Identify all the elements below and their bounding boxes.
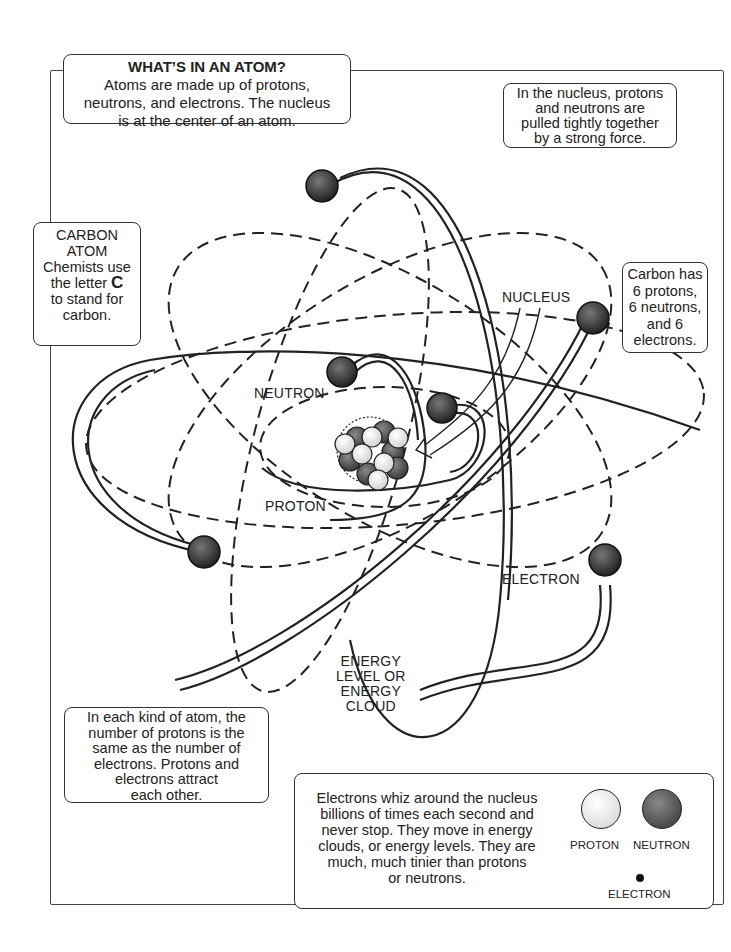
title-box: WHAT’S IN AN ATOM? Atoms are made up of … <box>63 54 351 124</box>
electron-info-line: much, much tinier than protons <box>301 854 553 870</box>
nucleus-info-box: In the nucleus, protons and neutrons are… <box>503 83 677 148</box>
count-line: electrons. <box>623 332 707 349</box>
carbon-line: Chemists use <box>34 259 140 275</box>
nucleus-info-line: and neutrons are <box>504 101 676 116</box>
energy-line: ENERGY <box>336 654 406 669</box>
neutron-sample <box>327 357 357 387</box>
carbon-line: ATOM <box>34 243 140 259</box>
nucleus-label: NUCLEUS <box>502 289 570 305</box>
count-line: and 6 <box>623 316 707 333</box>
neutron-label: NEUTRON <box>254 385 325 401</box>
electron-bottom-right <box>589 544 621 576</box>
equal-line: In each kind of atom, the <box>65 710 268 726</box>
electron-info-line: billions of times each second and <box>301 806 553 822</box>
equal-line: electrons. Protons and <box>65 757 268 773</box>
equal-line: number of protons is the <box>65 726 268 742</box>
carbon-line: carbon. <box>34 307 140 323</box>
nucleus-info-line: pulled tightly together <box>504 116 676 131</box>
electron-legend-icon <box>636 874 644 882</box>
nucleus-cluster <box>335 417 408 490</box>
electron-label: ELECTRON <box>502 571 580 587</box>
electron-info-line: never stop. They move in energy <box>301 822 553 838</box>
title-line: is at the center of an atom. <box>64 112 350 130</box>
energy-label: ENERGY LEVEL OR ENERGY CLOUD <box>336 654 406 714</box>
equal-line: same as the number of <box>65 741 268 757</box>
equal-line: electrons attract <box>65 772 268 788</box>
electron-left <box>188 536 220 568</box>
energy-line: ENERGY <box>336 684 406 699</box>
proton-sample <box>427 393 457 423</box>
electron-legend-label: ELECTRON <box>608 885 671 903</box>
title-line: neutrons, and electrons. The nucleus <box>64 94 350 112</box>
carbon-line: to stand for <box>34 291 140 307</box>
energy-line: CLOUD <box>336 699 406 714</box>
electron-top <box>306 170 338 202</box>
protons-electrons-box: In each kind of atom, the number of prot… <box>64 707 269 803</box>
proton-legend-icon <box>581 789 621 829</box>
carbon-line: CARBON <box>34 227 140 243</box>
neutron-legend-icon <box>642 789 682 829</box>
count-line: 6 protons, <box>623 283 707 300</box>
nucleus-info-line: In the nucleus, protons <box>504 86 676 101</box>
electron-info-text: Electrons whiz around the nucleus billio… <box>301 790 553 886</box>
electron-info-line: clouds, or energy levels. They are <box>301 838 553 854</box>
carbon-box: CARBON ATOM Chemists use the letter C to… <box>33 222 141 346</box>
nucleus-info-line: by a strong force. <box>504 131 676 146</box>
proton-label: PROTON <box>265 498 326 514</box>
count-line: Carbon has <box>623 266 707 283</box>
neutron-legend-label: NEUTRON <box>633 836 690 854</box>
count-line: 6 neutrons, <box>623 299 707 316</box>
equal-line: each other. <box>65 788 268 804</box>
electron-info-line: or neutrons. <box>301 870 553 886</box>
electron-info-line: Electrons whiz around the nucleus <box>301 790 553 806</box>
carbon-count-box: Carbon has 6 protons, 6 neutrons, and 6 … <box>622 262 708 353</box>
carbon-symbol: C <box>111 273 123 292</box>
proton-legend-label: PROTON <box>570 836 619 854</box>
carbon-line: the letter <box>51 275 111 291</box>
title-heading: WHAT’S IN AN ATOM? <box>64 58 350 76</box>
energy-line: LEVEL OR <box>336 669 406 684</box>
title-line: Atoms are made up of protons, <box>64 76 350 94</box>
electron-right <box>577 302 609 334</box>
electron-info-box: Electrons whiz around the nucleus billio… <box>294 773 714 909</box>
